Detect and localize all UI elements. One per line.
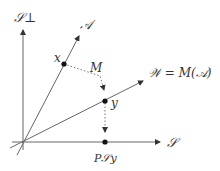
projection-label: P𝒮y <box>93 152 117 165</box>
s-label: 𝒮 <box>167 135 181 150</box>
s-perp-label: 𝒮⊥ <box>14 10 36 25</box>
x-point <box>61 61 66 66</box>
m-label: M <box>89 61 103 75</box>
w-label: 𝒲 = M(𝒜) <box>148 66 212 80</box>
w-line <box>10 81 143 148</box>
projection-diagram: 𝒮⊥ 𝒜 x M 𝒲 = M(𝒜) y 𝒮 P𝒮y <box>0 0 220 171</box>
y-label: y <box>110 96 118 110</box>
y-point <box>102 98 107 103</box>
projection-point <box>102 139 107 144</box>
x-label: x <box>54 51 61 65</box>
a-label: 𝒜 <box>80 17 96 32</box>
a-line <box>17 36 79 155</box>
